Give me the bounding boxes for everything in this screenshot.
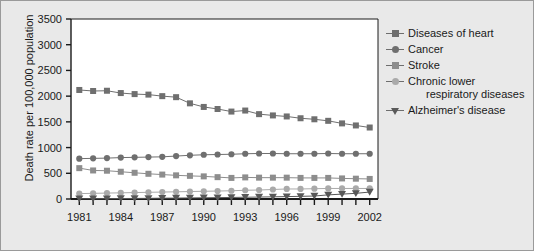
data-point-marker [228, 175, 234, 181]
data-point-marker [228, 151, 234, 157]
data-point-marker [159, 93, 165, 99]
data-point-marker [104, 190, 110, 196]
data-point-marker [214, 188, 220, 194]
data-point-marker [270, 112, 276, 118]
legend-marker-triangle-down-icon [386, 104, 404, 117]
data-point-marker [215, 106, 221, 112]
data-point-marker [367, 151, 373, 157]
data-point-marker [201, 173, 207, 179]
data-point-marker [270, 186, 276, 192]
legend-marker-square-icon [386, 27, 404, 40]
legend-marker-square-icon [386, 59, 404, 72]
data-point-marker [339, 151, 345, 157]
data-point-marker [76, 156, 82, 162]
legend-item-alzheimers-disease[interactable]: Alzheimer's disease [386, 104, 532, 117]
legend-label: Cancer [408, 43, 532, 56]
data-point-marker [159, 189, 165, 195]
data-point-marker [145, 171, 151, 177]
data-point-marker [132, 189, 138, 195]
y-tick-label: 1500 [38, 116, 62, 128]
x-tick-label: 1984 [109, 211, 133, 223]
x-tick-label: 1987 [150, 211, 174, 223]
data-point-marker [284, 186, 290, 192]
data-point-marker [256, 187, 262, 193]
y-tick-label: 2000 [38, 90, 62, 102]
legend-item-cancer[interactable]: Cancer [386, 43, 532, 56]
chart-legend: Diseases of heart Cancer Stroke Chronic … [386, 27, 532, 120]
x-tick-label: 1999 [316, 211, 340, 223]
data-point-marker [367, 176, 373, 182]
data-point-marker [118, 155, 124, 161]
data-point-marker [215, 174, 221, 180]
data-point-marker [159, 154, 165, 160]
legend-label: Alzheimer's disease [408, 104, 532, 117]
data-point-marker [353, 151, 359, 157]
x-tick-label: 1981 [67, 211, 91, 223]
legend-label: Stroke [408, 59, 532, 72]
legend-item-stroke[interactable]: Stroke [386, 59, 532, 72]
data-point-marker [187, 188, 193, 194]
legend-item-diseases-of-heart[interactable]: Diseases of heart [386, 27, 532, 40]
y-tick-label: 3500 [38, 13, 62, 25]
data-point-marker [242, 151, 248, 157]
data-point-marker [187, 152, 193, 158]
data-point-marker [90, 155, 96, 161]
data-point-marker [270, 175, 276, 181]
data-point-marker [187, 173, 193, 179]
data-point-marker [201, 188, 207, 194]
data-point-marker [145, 92, 151, 98]
x-tick-label: 1990 [192, 211, 216, 223]
y-tick-label: 0 [56, 193, 62, 205]
data-point-marker [311, 116, 317, 122]
data-point-marker [132, 91, 138, 97]
x-tick-label: 2002 [357, 211, 381, 223]
data-point-marker [284, 151, 290, 157]
data-point-marker [325, 150, 331, 156]
data-point-marker [339, 120, 345, 126]
legend-label-line2: respiratory diseases [408, 88, 532, 101]
data-point-marker [187, 100, 193, 106]
data-point-marker [256, 111, 262, 117]
data-point-marker [173, 189, 179, 195]
data-point-marker [311, 186, 317, 192]
data-point-marker [228, 109, 234, 115]
legend-marker-circle-icon [386, 75, 404, 88]
legend-item-chronic-lower-respiratory-diseases[interactable]: Chronic lowerrespiratory diseases [386, 75, 532, 101]
data-point-marker [367, 125, 373, 131]
data-point-marker [242, 187, 248, 193]
data-point-marker [201, 104, 207, 110]
data-point-marker [242, 174, 248, 180]
data-point-marker [118, 169, 124, 175]
data-point-marker [214, 151, 220, 157]
legend-label-line1: Chronic lower [408, 75, 475, 87]
data-point-marker [104, 168, 110, 174]
data-point-marker [298, 115, 304, 121]
data-point-marker [90, 88, 96, 94]
data-point-marker [284, 175, 290, 181]
legend-label: Diseases of heart [408, 27, 532, 40]
data-point-marker [353, 122, 359, 128]
data-point-marker [311, 151, 317, 157]
data-point-marker [159, 172, 165, 178]
data-point-marker [353, 176, 359, 182]
data-point-marker [256, 150, 262, 156]
data-point-marker [118, 90, 124, 96]
data-point-marker [201, 152, 207, 158]
y-tick-label: 2500 [38, 64, 62, 76]
data-point-marker [104, 155, 110, 161]
data-point-marker [284, 113, 290, 119]
data-point-marker [325, 185, 331, 191]
data-point-marker [90, 167, 96, 173]
data-point-marker [76, 87, 82, 93]
data-point-marker [339, 185, 345, 191]
data-point-marker [132, 154, 138, 160]
data-point-marker [256, 175, 262, 181]
data-point-marker [145, 189, 151, 195]
data-point-marker [325, 118, 331, 124]
y-tick-label: 1000 [38, 142, 62, 154]
data-point-marker [325, 175, 331, 181]
data-point-marker [297, 186, 303, 192]
data-point-marker [228, 188, 234, 194]
data-point-marker [132, 170, 138, 176]
x-tick-label: 1996 [274, 211, 298, 223]
